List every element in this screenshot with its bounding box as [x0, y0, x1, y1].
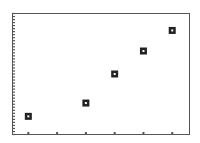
x-tick — [85, 132, 87, 134]
x-tick — [114, 132, 116, 134]
square-marker — [82, 100, 89, 107]
scatter-chart — [0, 0, 200, 143]
x-tick — [56, 132, 58, 134]
x-tick — [27, 132, 29, 134]
y-axis-ticks — [13, 14, 16, 135]
square-marker — [111, 71, 118, 78]
square-marker — [25, 113, 32, 120]
square-marker — [169, 27, 176, 34]
x-axis-ticks — [27, 132, 173, 134]
x-tick — [142, 132, 144, 134]
square-marker — [140, 48, 147, 55]
plot-frame — [13, 14, 190, 135]
x-tick — [171, 132, 173, 134]
data-points — [25, 27, 176, 120]
